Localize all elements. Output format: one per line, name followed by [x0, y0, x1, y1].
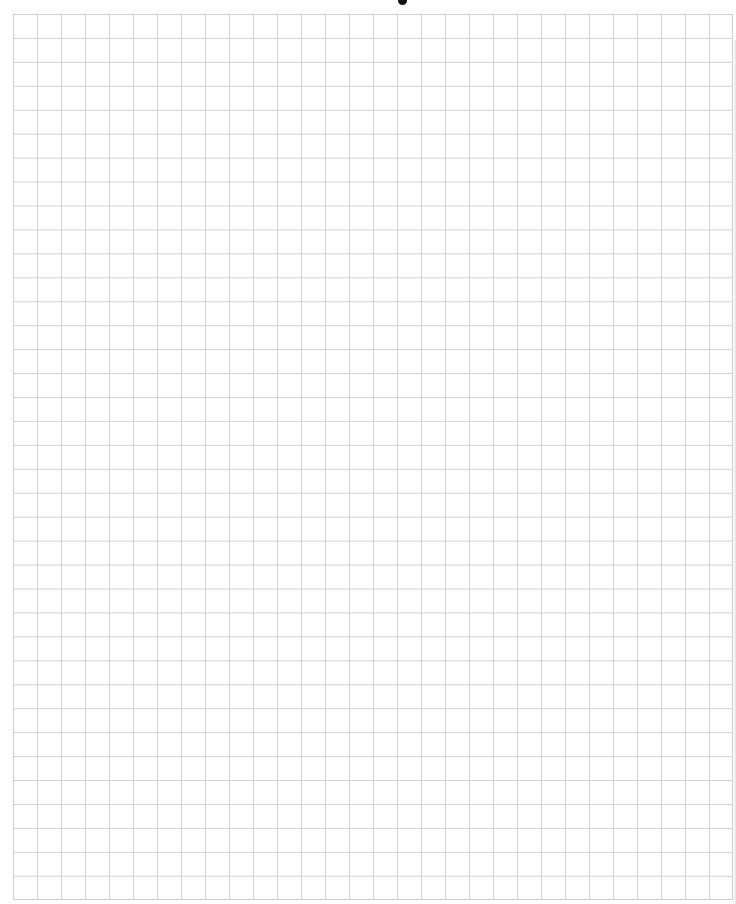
graph-paper-grid: [13, 14, 733, 900]
page-title: [0, 0, 736, 8]
